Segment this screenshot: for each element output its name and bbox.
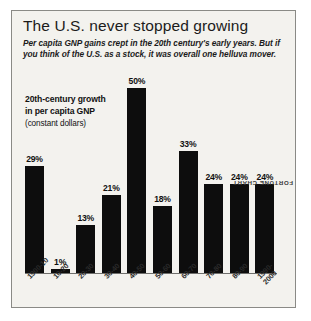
bar-value-label: 13% bbox=[77, 213, 94, 223]
bar-value-label: 33% bbox=[180, 139, 197, 149]
bar-10-20[interactable]: 1% bbox=[51, 11, 70, 273]
bar-80-90[interactable]: 24% bbox=[230, 11, 249, 273]
bar-value-label: 18% bbox=[154, 194, 171, 204]
bar-value-label: 24% bbox=[205, 172, 222, 182]
bar-40-50[interactable]: 50% bbox=[127, 11, 146, 273]
bar-1900-10[interactable]: 29% bbox=[25, 11, 44, 273]
bar-rect bbox=[102, 195, 121, 273]
chart-credit: FORTUNE CHART bbox=[233, 180, 293, 187]
chart-figure: The U.S. never stopped growing Per capit… bbox=[11, 10, 296, 308]
bar-30-40[interactable]: 21% bbox=[102, 11, 121, 273]
bar-value-label: 29% bbox=[26, 154, 43, 164]
bar-50-60[interactable]: 18% bbox=[153, 11, 172, 273]
bar-value-label: 21% bbox=[103, 183, 120, 193]
bar-rect bbox=[204, 184, 223, 273]
bar-60-70[interactable]: 33% bbox=[179, 11, 198, 273]
bar-20-30[interactable]: 13% bbox=[76, 11, 95, 273]
bar-70-80[interactable]: 24% bbox=[204, 11, 223, 273]
bar-plot-area: 29%1%13%21%50%18%33%24%24%24% bbox=[25, 11, 277, 273]
bar-1990-2000[interactable]: 24% bbox=[255, 11, 274, 273]
bar-rect bbox=[127, 88, 146, 273]
bar-rect bbox=[179, 151, 198, 273]
bar-value-label: 50% bbox=[129, 76, 146, 86]
bar-rect bbox=[153, 206, 172, 273]
bar-rect bbox=[255, 184, 274, 273]
bar-rect bbox=[230, 184, 249, 273]
